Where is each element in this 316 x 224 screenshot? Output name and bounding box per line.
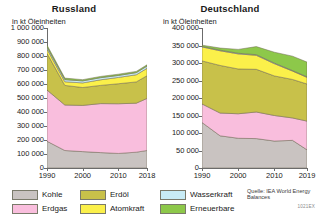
source-attribution: Quelle: IEA World Energy Balances 1021EX [247, 188, 315, 210]
y-tickmark-de-1 [199, 151, 202, 152]
y-tickmark-ru-1 [44, 154, 47, 155]
y-tickmark-de-6 [199, 63, 202, 64]
x-tick-de-1: 2000 [223, 171, 253, 180]
y-tick-de-5: 250 000 [156, 77, 199, 85]
x-tickmark-ru-2 [118, 168, 119, 171]
x-tick-ru-0: 1990 [32, 171, 62, 180]
legend-label-erdgas: Erdgas [42, 204, 67, 214]
y-tick-ru-3: 300 000 [1, 122, 44, 130]
x-tick-ru-1: 2000 [68, 171, 98, 180]
legend-label-wasserkraft: Wasserkraft [190, 190, 232, 200]
y-tick-de-2: 100 000 [156, 129, 199, 137]
y-tickmark-ru-8 [44, 56, 47, 57]
y-tickmark-de-2 [199, 133, 202, 134]
x-tickmark-de-0 [202, 168, 203, 171]
x-tick-de-3: 2019 [292, 171, 316, 180]
y-tick-ru-1: 100 000 [1, 150, 44, 158]
y-tickmark-ru-2 [44, 140, 47, 141]
x-tickmark-ru-3 [147, 168, 148, 171]
deutschland-area-svg [202, 28, 307, 168]
legend-swatch-erneuerbare [160, 204, 186, 214]
y-tickmark-de-4 [199, 98, 202, 99]
y-tickmark-ru-3 [44, 126, 47, 127]
x-tickmark-ru-0 [47, 168, 48, 171]
chart-title-russland: Russland [14, 3, 134, 14]
y-tickmark-de-5 [199, 81, 202, 82]
x-tickmark-de-2 [274, 168, 275, 171]
y-tickmark-ru-6 [44, 84, 47, 85]
y-tick-ru-8: 800 000 [1, 52, 44, 60]
legend-swatch-atomkraft [80, 204, 106, 214]
y-tick-ru-7: 700 000 [1, 66, 44, 74]
y-tick-de-8: 400 000 [156, 24, 199, 32]
legend-label-atomkraft: Atomkraft [110, 204, 144, 214]
legend-label-erdoel: Erdöl [110, 190, 129, 200]
plot-area-russland [47, 28, 147, 168]
y-tickmark-ru-4 [44, 112, 47, 113]
x-axis-line-russland [47, 168, 148, 169]
x-tick-ru-2: 2010 [103, 171, 133, 180]
x-axis-line-deutschland [202, 168, 308, 169]
y-tick-de-4: 200 000 [156, 94, 199, 102]
y-tick-de-1: 50 000 [156, 147, 199, 155]
y-tickmark-ru-10 [44, 28, 47, 29]
x-tickmark-de-3 [307, 168, 308, 171]
y-tickmark-de-7 [199, 46, 202, 47]
y-tickmark-ru-7 [44, 70, 47, 71]
y-tick-de-6: 300 000 [156, 59, 199, 67]
x-tickmark-de-1 [238, 168, 239, 171]
plot-area-deutschland [202, 28, 307, 168]
source-code: 1021EX [247, 204, 315, 210]
legend-swatch-erdgas [12, 204, 38, 214]
y-tick-ru-2: 200 000 [1, 136, 44, 144]
chart-title-deutschland: Deutschland [165, 3, 295, 14]
y-tickmark-ru-5 [44, 98, 47, 99]
x-tick-ru-3: 2018 [132, 171, 162, 180]
legend-swatch-kohle [12, 190, 38, 200]
y-tick-ru-5: 500 000 [1, 94, 44, 102]
y-tickmark-de-3 [199, 116, 202, 117]
x-tick-de-2: 2010 [259, 171, 289, 180]
legend-label-erneuerbare: Erneuerbare [190, 204, 234, 214]
y-tick-de-7: 350 000 [156, 42, 199, 50]
y-tick-ru-10: 1 000 000 [1, 24, 44, 32]
x-tickmark-ru-1 [83, 168, 84, 171]
infographic-root: Russland in kt Öleinheiten Deutschland i… [0, 0, 316, 224]
y-tickmark-de-8 [199, 28, 202, 29]
y-tickmark-ru-9 [44, 42, 47, 43]
legend-swatch-erdoel [80, 190, 106, 200]
source-text: Quelle: IEA World Energy Balances [247, 188, 315, 201]
x-tick-de-0: 1990 [187, 171, 217, 180]
y-tick-ru-6: 600 000 [1, 80, 44, 88]
legend-swatch-wasserkraft [160, 190, 186, 200]
y-tick-ru-4: 400 000 [1, 108, 44, 116]
russland-area-svg [47, 28, 147, 168]
y-tick-ru-9: 900 000 [1, 38, 44, 46]
y-tick-de-3: 150 000 [156, 112, 199, 120]
legend-label-kohle: Kohle [42, 190, 62, 200]
